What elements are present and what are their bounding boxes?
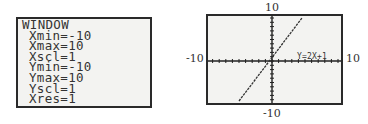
- x-max-label: 10: [346, 52, 360, 65]
- graph-screen: Y=2X+1: [206, 14, 343, 105]
- y-min-label: -10: [263, 107, 281, 120]
- equation-label: Y=2X+1: [297, 52, 327, 61]
- x-min-label: -10: [186, 52, 204, 65]
- xres-setting: Xres=1: [22, 94, 92, 105]
- y-max-label: 10: [265, 1, 279, 14]
- window-settings-screen: WINDOW Xmin=-10 Xmax=10 Xscl=1 Ymin=-10 …: [16, 17, 152, 108]
